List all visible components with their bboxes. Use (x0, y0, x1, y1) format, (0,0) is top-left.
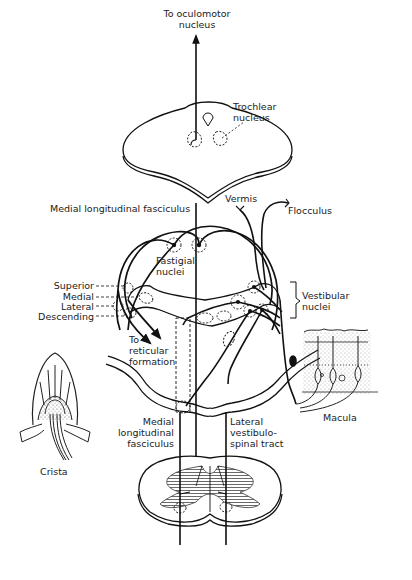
label-trochlear-nucleus: Trochlear nucleus (233, 101, 276, 123)
label-lateral-vestibulospinal-tract: Lateral vestibulo- spinal tract (230, 416, 284, 449)
label-descending-nucleus: Descending (20, 311, 94, 322)
cerebellar-input-fibers (236, 199, 289, 290)
label-oculomotor-nucleus: To oculomotor nucleus (156, 8, 238, 30)
label-fastigial-nuclei: Fastigial nuclei (156, 255, 206, 277)
spinal-cord-section (138, 456, 282, 526)
label-mlf-top: Medial longitudinal fasciculus (50, 203, 190, 214)
label-macula: Macula (323, 412, 357, 423)
vestibular-nuclei-bracket (290, 282, 300, 318)
label-flocculus: Flocculus (288, 205, 332, 216)
macula-illustration (296, 329, 378, 412)
label-vermis: Vermis (225, 193, 257, 204)
label-crista: Crista (40, 466, 68, 477)
label-vestibular-nuclei: Vestibular nuclei (302, 290, 349, 312)
label-reticular-formation: To reticular formation (129, 334, 175, 367)
crista-illustration (20, 353, 90, 460)
label-mlf-bottom: Medial longitudinal fasciculus (100, 416, 174, 449)
label-superior-nucleus: Superior (20, 280, 94, 291)
